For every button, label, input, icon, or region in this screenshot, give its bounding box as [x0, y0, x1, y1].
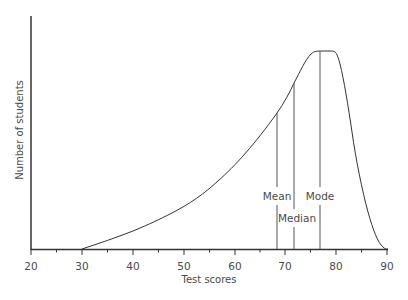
x-tick-label: 80	[329, 260, 342, 272]
x-axis-label: Test scores	[181, 274, 237, 285]
x-tick-label: 40	[126, 260, 139, 272]
median-label: Median	[278, 212, 316, 224]
x-tick-label: 50	[177, 260, 190, 272]
mode-label: Mode	[306, 190, 335, 202]
y-axis-label: Number of students	[14, 80, 25, 180]
x-tick-label: 70	[278, 260, 291, 272]
x-tick-label: 30	[75, 260, 88, 272]
x-tick-label: 60	[228, 260, 241, 272]
skewed-distribution-chart: 20 30 40 50 60 70 80 90 Test scores Numb…	[0, 0, 408, 300]
mean-label: Mean	[263, 190, 292, 202]
x-tick-labels: 20 30 40 50 60 70 80 90	[24, 260, 393, 272]
x-tick-label: 90	[380, 260, 393, 272]
distribution-curve	[82, 51, 388, 249]
x-tick-label: 20	[24, 260, 37, 272]
